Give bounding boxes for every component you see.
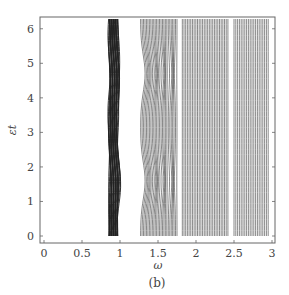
- band-1: [108, 19, 121, 236]
- x-tick-label: 0: [41, 247, 48, 260]
- y-tick-label: 5: [27, 57, 34, 70]
- band-4: [234, 19, 268, 236]
- y-tick-label: 0: [27, 230, 34, 243]
- figure-caption: (b): [148, 276, 165, 290]
- y-tick-label: 4: [27, 92, 34, 105]
- x-tick-label: 1: [117, 247, 124, 260]
- band-3: [182, 19, 228, 236]
- y-tick-label: 1: [27, 195, 34, 208]
- y-tick-label: 3: [27, 126, 34, 139]
- y-tick-label: 6: [27, 23, 34, 36]
- x-axis-label: ω: [154, 259, 163, 272]
- x-tick-label: 0.5: [73, 247, 91, 260]
- band-2: [141, 19, 177, 236]
- y-axis-label: εt: [6, 124, 19, 135]
- chart: 00.511.522.53 0123456 ω εt (b): [0, 0, 289, 295]
- x-tick-label: 2.5: [225, 247, 243, 260]
- x-tick-label: 3: [269, 247, 276, 260]
- x-tick-label: 2: [193, 247, 200, 260]
- curve-bands: [108, 19, 268, 236]
- y-tick-label: 2: [27, 161, 34, 174]
